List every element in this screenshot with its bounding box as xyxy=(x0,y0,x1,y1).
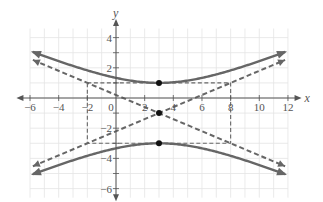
x-tick-label: 8 xyxy=(228,101,234,113)
branch-arrow-icon xyxy=(276,168,287,176)
x-axis-right-arrow-icon xyxy=(295,95,302,101)
center-point xyxy=(156,110,162,116)
y-axis-label: y xyxy=(112,6,119,20)
y-tick-label: 2 xyxy=(107,62,113,74)
x-tick-label: 10 xyxy=(254,101,266,113)
x-tick-label: 0 xyxy=(108,101,114,113)
asymptote-arrow-icon xyxy=(33,59,41,65)
x-tick-label: 12 xyxy=(282,101,293,113)
x-tick-label: −4 xyxy=(53,101,65,113)
x-tick-label: 4 xyxy=(171,101,177,113)
x-axis-label: x xyxy=(304,91,311,105)
lower-vertex-point xyxy=(156,140,162,146)
y-axis-up-arrow-icon xyxy=(113,19,119,26)
x-tick-label: 2 xyxy=(142,101,148,113)
y-tick-label: 4 xyxy=(107,32,113,44)
x-tick-label: 6 xyxy=(199,101,205,113)
y-tick-label: −6 xyxy=(100,183,112,195)
x-tick-label: −2 xyxy=(81,101,93,113)
tick-labels: −6−4−2024681012−6−4−224xy xyxy=(24,6,310,195)
branch-arrow-icon xyxy=(31,51,42,59)
branch-arrow-icon xyxy=(276,51,287,59)
branch-arrow-icon xyxy=(31,168,42,176)
y-tick-label: −2 xyxy=(100,122,112,134)
hyperbola-chart: −6−4−2024681012−6−4−224xy xyxy=(0,0,323,202)
y-tick-label: −4 xyxy=(100,152,112,164)
x-tick-label: −6 xyxy=(24,101,36,113)
x-axis-left-arrow-icon xyxy=(16,95,23,101)
upper-vertex-point xyxy=(156,80,162,86)
asymptote-arrow-icon xyxy=(33,160,41,166)
y-axis-down-arrow-icon xyxy=(113,194,119,201)
